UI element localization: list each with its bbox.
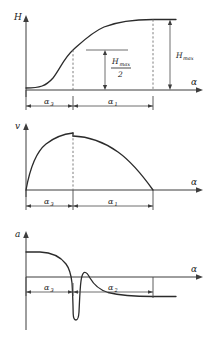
velocity-y-axis-label: v: [15, 121, 20, 131]
velocity-segment-label-1: α 1: [108, 197, 118, 207]
displacement-x-axis-arrow: [196, 87, 203, 93]
displacement-dim-arrow-a3-left: [26, 104, 31, 108]
displacement-segment-label-0: α 3: [44, 97, 54, 107]
acceleration-y-axis-label: a: [15, 229, 20, 239]
acceleration-y-axis-arrow: [23, 231, 29, 238]
panel-displacement: H α H max 2 H max: [13, 12, 203, 110]
kinematics-diagram: H α H max 2 H max: [0, 0, 216, 345]
velocity-dim-arrow-a3-right: [68, 204, 73, 208]
displacement-y-axis-arrow: [23, 15, 29, 22]
velocity-x-axis-arrow: [196, 187, 203, 193]
velocity-dim-arrow-a1-left: [73, 204, 78, 208]
velocity-segment-label-0: α 3: [44, 197, 54, 207]
acceleration-segment-1-sub: 2: [114, 287, 118, 293]
acceleration-dim-arrow-a2-left: [73, 290, 78, 294]
acceleration-x-axis-label: α: [191, 264, 197, 274]
total-rise-label: H max: [175, 51, 194, 61]
velocity-segment-0-symbol: α: [44, 197, 50, 206]
displacement-y-axis-label: H: [13, 12, 22, 22]
acceleration-dim-arrow-a3-left: [26, 290, 31, 294]
acceleration-segment-label-0: α 3: [44, 283, 54, 293]
panel-acceleration: a α α 3 α 2: [15, 229, 203, 330]
displacement-segment-label-1: α 1: [108, 97, 118, 107]
figure-root: H α H max 2 H max: [0, 0, 216, 345]
displacement-segment-1-symbol: α: [108, 97, 114, 106]
displacement-dim-arrow-a1-right: [148, 104, 153, 108]
acceleration-x-axis-arrow: [196, 274, 203, 280]
acceleration-dimension-band: α 3 α 2: [26, 277, 153, 298]
acceleration-segment-0-sub: 3: [51, 287, 54, 293]
velocity-y-axis-arrow: [23, 123, 29, 130]
velocity-dim-arrow-a3-left: [26, 204, 31, 208]
displacement-segment-0-sub: 3: [51, 101, 54, 107]
half-rise-arrow-down: [103, 85, 107, 90]
displacement-dim-arrow-a1-left: [73, 104, 78, 108]
acceleration-segment-label-1: α 2: [108, 283, 118, 293]
velocity-curve-falling: [73, 136, 153, 190]
half-rise-numerator-sub: max: [120, 61, 131, 67]
displacement-x-axis-label: α: [191, 77, 197, 87]
total-rise-arrow-down: [168, 85, 172, 91]
total-rise-label-text: H: [175, 51, 183, 60]
acceleration-dim-arrow-a2-right: [148, 290, 153, 294]
displacement-dim-arrow-a3-right: [68, 104, 73, 108]
velocity-dimension-band: α 3 α 1: [26, 190, 153, 210]
panel-velocity: v α α 3 α 1: [15, 121, 203, 210]
velocity-segment-0-sub: 3: [51, 201, 54, 207]
displacement-curve: [26, 20, 176, 89]
acceleration-segment-1-symbol: α: [108, 283, 114, 292]
displacement-segment-1-sub: 1: [115, 101, 118, 107]
displacement-segment-0-symbol: α: [44, 97, 50, 106]
displacement-dimension-band: α 3 α 1: [26, 90, 153, 110]
velocity-curve-rising: [26, 133, 73, 190]
half-rise-arrow-up: [103, 50, 107, 55]
acceleration-segment-0-symbol: α: [44, 283, 50, 292]
velocity-segment-1-symbol: α: [108, 197, 114, 206]
total-rise-arrow-up: [168, 20, 172, 26]
total-rise-label-sub: max: [183, 55, 194, 61]
velocity-x-axis-label: α: [191, 177, 197, 187]
half-rise-denominator: 2: [117, 70, 123, 79]
velocity-segment-1-sub: 1: [115, 201, 118, 207]
half-rise-numerator: H: [111, 57, 119, 66]
half-rise-label: H max 2: [111, 57, 131, 79]
velocity-dim-arrow-a1-right: [148, 204, 153, 208]
